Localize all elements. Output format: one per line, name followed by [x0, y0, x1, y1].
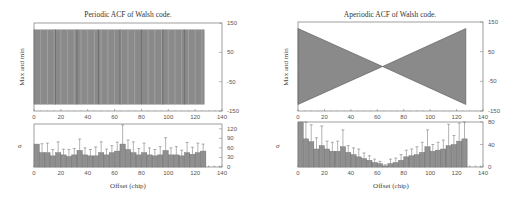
svg-text:-150: -150 — [227, 108, 240, 114]
sigma-plot: 02040608010012014080400 — [296, 119, 495, 176]
sigma-label: σ — [18, 142, 22, 150]
svg-text:0: 0 — [488, 164, 492, 170]
svg-text:20: 20 — [321, 114, 328, 120]
svg-text:30: 30 — [227, 154, 234, 160]
svg-text:80: 80 — [488, 119, 495, 125]
svg-text:100: 100 — [163, 170, 174, 176]
svg-text:140: 140 — [217, 170, 228, 176]
svg-text:150: 150 — [227, 20, 238, 26]
svg-text:120: 120 — [190, 114, 201, 120]
svg-text:-150: -150 — [488, 108, 501, 114]
max-min-plot: 02040608010012014015050-50-150 — [32, 20, 239, 120]
svg-text:60: 60 — [227, 145, 234, 151]
svg-text:100: 100 — [425, 114, 436, 120]
max-min-plot: 02040608010012014015050-50-150 — [296, 19, 500, 120]
svg-text:60: 60 — [111, 170, 118, 176]
svg-text:50: 50 — [488, 49, 495, 55]
svg-text:100: 100 — [425, 170, 436, 176]
x-axis-label: Offset (chip) — [373, 182, 409, 190]
aperiodic-chart: Aperiodic ACF of Walsh code. Max and min… — [276, 10, 501, 190]
svg-text:120: 120 — [452, 114, 463, 120]
svg-text:80: 80 — [138, 114, 145, 120]
svg-text:0: 0 — [296, 170, 300, 176]
svg-text:-50: -50 — [227, 79, 236, 85]
svg-text:80: 80 — [138, 170, 145, 176]
chart-title: Periodic ACF of Walsh code. — [84, 10, 171, 19]
svg-text:20: 20 — [58, 170, 65, 176]
svg-text:0: 0 — [32, 170, 36, 176]
y-axis-label: Max and min — [282, 48, 290, 86]
chart-title: Aperiodic ACF of Walsh code. — [344, 10, 436, 19]
svg-text:50: 50 — [227, 49, 234, 55]
svg-text:120: 120 — [452, 170, 463, 176]
svg-text:80: 80 — [400, 170, 407, 176]
svg-text:140: 140 — [478, 170, 489, 176]
sigma-plot: 0204060801001201401209060300 — [32, 124, 237, 176]
svg-text:40: 40 — [348, 170, 355, 176]
svg-text:60: 60 — [111, 114, 118, 120]
svg-text:20: 20 — [58, 114, 65, 120]
svg-text:90: 90 — [227, 135, 234, 141]
svg-text:150: 150 — [488, 19, 499, 25]
svg-text:100: 100 — [163, 114, 174, 120]
svg-text:0: 0 — [296, 114, 300, 120]
svg-text:120: 120 — [227, 126, 238, 132]
svg-text:-50: -50 — [488, 78, 497, 84]
svg-text:120: 120 — [190, 170, 201, 176]
svg-text:140: 140 — [217, 114, 228, 120]
figure: Periodic ACF of Walsh code. Max and min … — [0, 0, 515, 198]
svg-text:60: 60 — [374, 114, 381, 120]
svg-text:40: 40 — [84, 114, 91, 120]
periodic-chart: Periodic ACF of Walsh code. Max and min … — [18, 10, 240, 190]
svg-text:80: 80 — [400, 114, 407, 120]
svg-text:60: 60 — [374, 170, 381, 176]
svg-text:40: 40 — [488, 142, 495, 148]
y-axis-label: Max and min — [18, 48, 26, 86]
svg-text:0: 0 — [227, 164, 231, 170]
x-axis-label: Offset (chip) — [110, 182, 146, 190]
svg-text:40: 40 — [348, 114, 355, 120]
sigma-label: σ — [276, 142, 280, 150]
svg-text:40: 40 — [84, 170, 91, 176]
svg-text:20: 20 — [321, 170, 328, 176]
svg-text:0: 0 — [32, 114, 36, 120]
